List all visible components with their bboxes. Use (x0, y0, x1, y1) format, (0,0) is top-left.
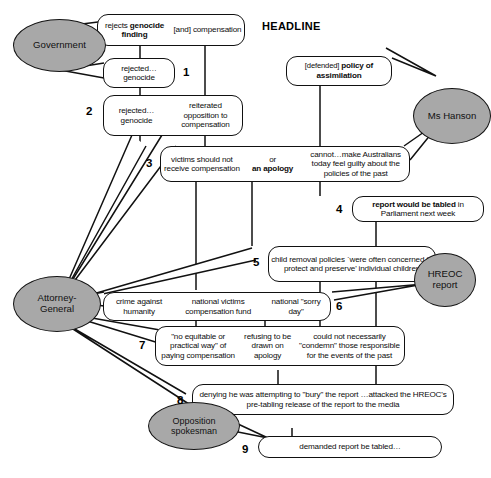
cell-victims-no-compensation: victims should not receive compensation (161, 154, 243, 175)
row-number-6: 6 (336, 300, 342, 312)
cell-demanded-report-tabled: demanded report be tabled… (259, 441, 441, 452)
row-number-4: 4 (336, 203, 342, 215)
cell-reiterated-opposition: reiterated opposition to compensation (169, 100, 242, 130)
cell-national-victims-compensation-fund: national victims compensation fund (174, 296, 262, 317)
actor-ms-hanson[interactable]: Ms Hanson (413, 88, 491, 144)
row-number-2: 2 (86, 105, 92, 117)
box-crime-fund-sorry-day[interactable]: crime against humanity national victims … (103, 292, 331, 321)
box-no-equitable-way[interactable]: "no equitable or practical way" of payin… (155, 326, 405, 366)
box-victims-apology-guilty[interactable]: victims should not receive compensation … (160, 146, 410, 182)
headline-label: HEADLINE (262, 20, 321, 32)
cell-refusing-drawn-on-apology: refusing to be drawn on apology (240, 331, 295, 361)
cell-crime-against-humanity: crime against humanity (104, 296, 174, 317)
cell-denying-bury-report: denying he was attempting to "bury" the … (193, 389, 453, 410)
row-number-7: 7 (139, 339, 145, 351)
actor-hreoc-report-label: HREOC report (428, 269, 463, 290)
row-number-9: 9 (242, 443, 248, 455)
actor-government[interactable]: Government (13, 19, 106, 72)
actor-ms-hanson-label: Ms Hanson (428, 111, 477, 122)
box-child-removal-policies[interactable]: child removal policies `were often conce… (268, 246, 436, 282)
actor-government-label: Government (33, 40, 86, 51)
box-report-tabled-parliament[interactable]: report would be tabled in Parliament nex… (352, 196, 484, 222)
cell-defended-policy-assimilation: [defended] policy of assimilation (287, 60, 391, 81)
box-rejects-genocide-finding[interactable]: rejects genocide finding [and] compensat… (97, 14, 245, 46)
actor-opposition-spokesman-label: Opposition spokesman (171, 416, 217, 436)
cell-rejected-genocide-a: rejected… genocide (104, 63, 174, 84)
row-number-3: 3 (146, 157, 152, 169)
cell-rejects-genocide-finding: rejects genocide finding (98, 20, 171, 41)
box-defended-policy-assimilation[interactable]: [defended] policy of assimilation (286, 56, 392, 86)
box-rejected-genocide-reiterated[interactable]: rejected… genocide reiterated opposition… (103, 95, 243, 136)
box-denying-bury-report[interactable]: denying he was attempting to "bury" the … (192, 384, 454, 415)
actor-attorney-general[interactable]: Attorney- General (13, 276, 101, 332)
cell-rejected-genocide-b: rejected… genocide (104, 105, 169, 126)
cell-report-tabled-parliament: report would be tabled in Parliament nex… (353, 199, 483, 220)
actor-attorney-general-label: Attorney- General (38, 293, 77, 314)
cell-no-equitable-practical-way: "no equitable or practical way" of payin… (156, 331, 240, 361)
cell-or-an-apology: or an apology (243, 154, 303, 175)
cell-and-compensation: [and] compensation (171, 24, 244, 35)
cell-national-sorry-day: national "sorry day" (262, 296, 330, 317)
box-demanded-report-tabled[interactable]: demanded report be tabled… (258, 436, 442, 458)
row-number-8: 8 (177, 394, 183, 406)
row-number-1: 1 (183, 66, 189, 78)
cell-cannot-make-australians-guilty: cannot…make Australians today feel guilt… (302, 149, 409, 179)
cell-could-not-condemn: could not necessarily "condemn" those re… (295, 331, 404, 361)
cell-child-removal-policies: child removal policies `were often conce… (269, 254, 435, 275)
discourse-diagram: HEADLINE rejects genocide finding [and] … (0, 0, 491, 478)
box-rejected-genocide-a[interactable]: rejected… genocide (103, 58, 175, 88)
actor-hreoc-report[interactable]: HREOC report (414, 253, 476, 307)
actor-opposition-spokesman[interactable]: Opposition spokesman (148, 402, 240, 450)
row-number-5: 5 (253, 256, 259, 268)
